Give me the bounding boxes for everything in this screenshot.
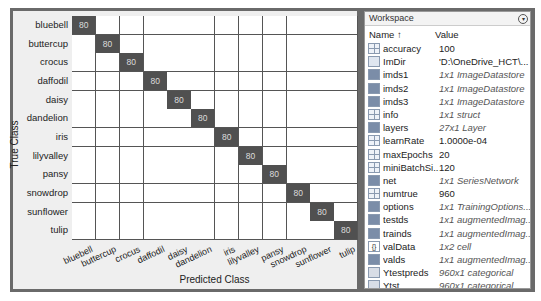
matrix-cell (310, 109, 334, 128)
matrix-cell (239, 16, 263, 35)
value-column-header[interactable]: Value (435, 26, 459, 42)
matrix-cell (310, 35, 334, 54)
variable-value: 27x1 Layer (439, 121, 530, 134)
matrix-icon (368, 162, 380, 173)
object-icon (368, 214, 380, 225)
workspace-variable-row[interactable]: valds1x1 augmentedImag... (365, 253, 530, 266)
matrix-cell (191, 53, 215, 72)
matrix-cell (287, 165, 311, 184)
matrix-cell: 80 (310, 203, 334, 222)
name-column-header[interactable]: Name ↑ (365, 26, 435, 42)
matrix-cell (167, 72, 191, 91)
workspace-variable-row[interactable]: numtrue960 (365, 187, 530, 200)
workspace-variable-row[interactable]: net1x1 SeriesNetwork (365, 174, 530, 187)
matrix-cell (96, 91, 120, 110)
y-tick-label: crocus (8, 53, 68, 72)
matrix-cell (167, 165, 191, 184)
workspace-variable-row[interactable]: maxEpochs20 (365, 148, 530, 161)
matrix-cell (191, 184, 215, 203)
variable-value: 'D:\OneDrive_HCT\... (439, 55, 530, 68)
matrix-cell (263, 16, 287, 35)
matrix-cell (72, 53, 96, 72)
workspace-variable-row[interactable]: learnRate1.0000e-04 (365, 134, 530, 147)
workspace-variable-row[interactable]: ImDir'D:\OneDrive_HCT\... (365, 55, 530, 68)
variable-value: 1x1 ImageDatastore (439, 82, 530, 95)
variable-value: 960 (439, 187, 530, 200)
matrix-cell (263, 147, 287, 166)
workspace-variable-row[interactable]: info1x1 struct (365, 108, 530, 121)
matrix-cell (239, 109, 263, 128)
matrix-cell: 80 (144, 72, 168, 91)
variable-name: miniBatchSi... (383, 161, 439, 174)
matrix-cell (167, 184, 191, 203)
workspace-variable-row[interactable]: testds1x1 augmentedImag... (365, 213, 530, 226)
matrix-cell (215, 203, 239, 222)
workspace-variable-row[interactable]: imds11x1 ImageDatastore (365, 68, 530, 81)
matrix-cell (287, 128, 311, 147)
workspace-variable-row[interactable]: trainds1x1 augmentedImag... (365, 227, 530, 240)
workspace-variable-row[interactable]: accuracy100 (365, 42, 530, 55)
matrix-cell (287, 147, 311, 166)
matrix-cell (191, 128, 215, 147)
matrix-cell: 80 (287, 184, 311, 203)
matrix-cell: 80 (215, 128, 239, 147)
variable-name: info (383, 108, 439, 121)
matrix-cell (334, 165, 358, 184)
matrix-cell (96, 16, 120, 35)
matrix-cell (287, 16, 311, 35)
workspace-variable-row[interactable]: layers27x1 Layer (365, 121, 530, 134)
variable-name: maxEpochs (383, 148, 439, 161)
workspace-variable-row[interactable]: Ytst960x1 categorical (365, 279, 530, 289)
matrix-cell (96, 147, 120, 166)
matrix-cell (287, 91, 311, 110)
matrix-cell (263, 203, 287, 222)
matrix-cell (120, 128, 144, 147)
variable-list: accuracy100ImDir'D:\OneDrive_HCT\...imds… (365, 42, 530, 289)
workspace-menu-icon[interactable]: ▾ (518, 14, 528, 24)
struct-icon (368, 109, 380, 120)
workspace-variable-row[interactable]: imds31x1 ImageDatastore (365, 95, 530, 108)
matrix-cell (96, 128, 120, 147)
matrix-cell (120, 72, 144, 91)
categorical-icon (368, 267, 380, 278)
variable-value: 1x1 TrainingOptions... (439, 200, 530, 213)
object-icon (368, 83, 380, 94)
matrix-cell (263, 109, 287, 128)
matrix-cell (191, 16, 215, 35)
matrix-cell (215, 184, 239, 203)
matrix-cell (215, 147, 239, 166)
matrix-cell (239, 128, 263, 147)
matrix-cell: 80 (191, 109, 215, 128)
matrix-cell (144, 165, 168, 184)
matrix-cell (120, 221, 144, 240)
matrix-cell (263, 128, 287, 147)
workspace-variable-row[interactable]: Ytestpreds960x1 categorical (365, 266, 530, 279)
matrix-cell (167, 221, 191, 240)
matrix-cell (167, 53, 191, 72)
matrix-cell (72, 184, 96, 203)
matrix-cell (239, 165, 263, 184)
matrix-cell (239, 35, 263, 54)
workspace-variable-row[interactable]: miniBatchSi...120 (365, 161, 530, 174)
workspace-header: Workspace ▾ (365, 12, 530, 26)
variable-value: 1x1 ImageDatastore (439, 68, 530, 81)
y-tick-label: daffodil (8, 72, 68, 91)
confusion-chart: bluebellbuttercupcrocusdaffodildaisydand… (13, 11, 357, 289)
workspace-variable-row[interactable]: {}valData1x2 cell (365, 240, 530, 253)
matrix-cell (72, 35, 96, 54)
object-icon (368, 201, 380, 212)
variable-value: 1x1 augmentedImag... (439, 213, 530, 226)
matrix-cell: 80 (167, 91, 191, 110)
matrix-cell (239, 91, 263, 110)
matrix-cell (191, 35, 215, 54)
variable-name: trainds (383, 227, 439, 240)
object-icon (368, 122, 380, 133)
matrix-cell (120, 165, 144, 184)
matrix-cell (215, 165, 239, 184)
matrix-cell (120, 91, 144, 110)
workspace-variable-row[interactable]: imds21x1 ImageDatastore (365, 82, 530, 95)
variable-value: 20 (439, 148, 530, 161)
workspace-variable-row[interactable]: options1x1 TrainingOptions... (365, 200, 530, 213)
variable-value: 960x1 categorical (439, 266, 530, 279)
matrix-cell (191, 147, 215, 166)
